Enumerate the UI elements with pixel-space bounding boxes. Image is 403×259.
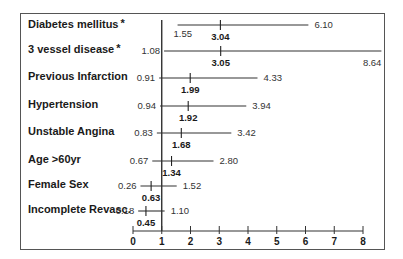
significance-star: * <box>120 17 125 29</box>
lower-bound-value: 0.83 <box>134 127 153 138</box>
estimate-value: 1.34 <box>162 167 181 178</box>
row-label: Previous Infarction <box>28 70 128 82</box>
row-label: Unstable Angina <box>28 125 115 137</box>
lower-bound-value: 0.67 <box>130 155 149 166</box>
lower-bound-value: 1.08 <box>142 45 161 56</box>
upper-bound-value: 1.10 <box>171 205 190 216</box>
row-label: Age >60yr <box>28 153 82 165</box>
x-tick-label: 0 <box>130 236 136 247</box>
upper-bound-value: 1.52 <box>183 180 202 191</box>
x-tick-label: 6 <box>303 236 309 247</box>
estimate-value: 3.05 <box>211 57 230 68</box>
estimate-value: 1.68 <box>172 139 191 150</box>
upper-bound-value: 3.94 <box>252 100 271 111</box>
row-label: Female Sex <box>28 178 89 190</box>
estimate-value: 1.92 <box>179 112 198 123</box>
x-tick-label: 1 <box>159 236 165 247</box>
lower-bound-value: 0.94 <box>138 100 157 111</box>
x-tick-label: 7 <box>331 236 337 247</box>
upper-bound-value: 3.42 <box>237 127 256 138</box>
significance-star: * <box>116 42 121 54</box>
lower-bound-value: 0.26 <box>118 180 137 191</box>
estimate-value: 1.99 <box>181 84 200 95</box>
forest-plot: 012345678Diabetes mellitus*3.041.556.103… <box>0 0 403 259</box>
x-tick-label: 5 <box>274 236 280 247</box>
x-tick-label: 2 <box>188 236 194 247</box>
upper-bound-value: 6.10 <box>314 19 333 30</box>
upper-bound-value: 4.33 <box>263 72 282 83</box>
lower-bound-value: 1.55 <box>174 28 193 39</box>
row-label: Hypertension <box>28 98 99 110</box>
estimate-value: 0.45 <box>137 217 156 228</box>
lower-bound-value: 0.18 <box>116 205 135 216</box>
upper-bound-value: 2.80 <box>220 155 239 166</box>
x-tick-label: 4 <box>245 236 251 247</box>
upper-bound-value: 8.64 <box>363 57 382 68</box>
row-label: 3 vessel disease <box>28 43 114 55</box>
estimate-value: 0.63 <box>142 192 161 203</box>
x-tick-label: 3 <box>216 236 222 247</box>
estimate-value: 3.04 <box>211 31 230 42</box>
lower-bound-value: 0.91 <box>137 72 156 83</box>
x-tick-label: 8 <box>360 236 366 247</box>
row-label: Diabetes mellitus <box>28 18 118 30</box>
